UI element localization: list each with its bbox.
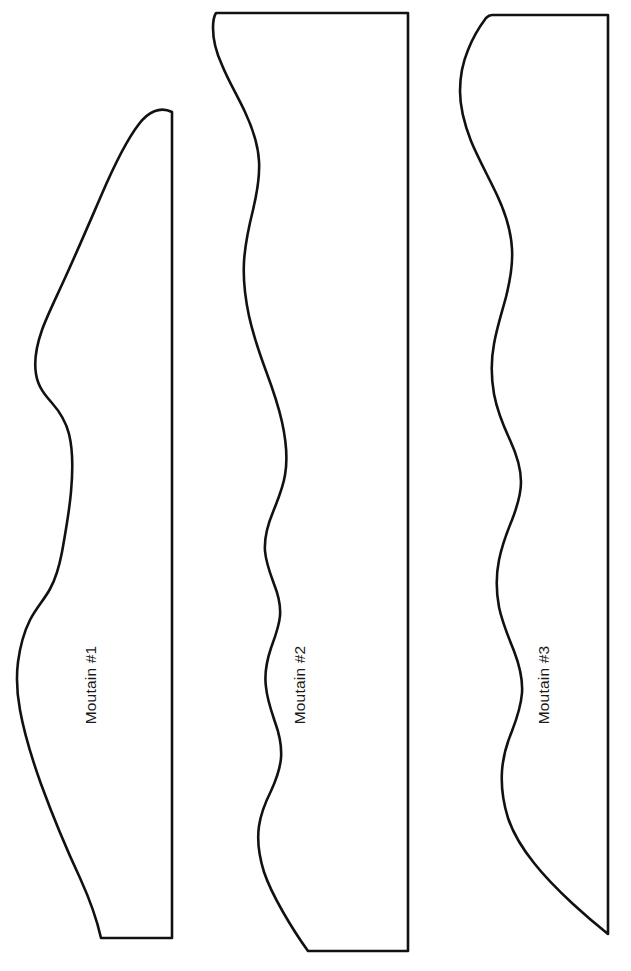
mountain-3-label: Moutain #3 [535,646,552,725]
mountain-1-label: Moutain #1 [82,646,99,725]
template-page: Moutain #1 Moutain #2 Moutain #3 [0,0,631,971]
mountain-2-label: Moutain #2 [291,646,308,725]
mountain-templates-canvas: Moutain #1 Moutain #2 Moutain #3 [0,0,631,971]
